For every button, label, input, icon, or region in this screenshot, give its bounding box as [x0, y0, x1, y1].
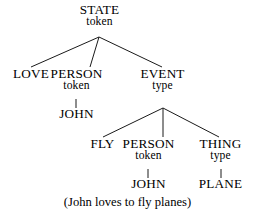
node-john-2: JOHN: [120, 177, 177, 190]
node-person-2: PERSON token: [120, 137, 177, 162]
node-john-1: JOHN: [48, 107, 105, 120]
node-person-1: PERSON token: [48, 67, 105, 92]
node-event-sublabel: type: [134, 80, 191, 92]
node-person-1-label: PERSON: [48, 67, 105, 80]
node-thing-label: THING: [192, 137, 249, 150]
node-love-label: LOVE: [13, 66, 49, 81]
edge-event-thing: [163, 108, 219, 137]
node-thing: THING type: [192, 137, 249, 162]
node-state-sublabel: token: [62, 16, 137, 28]
node-person-2-label: PERSON: [120, 137, 177, 150]
node-john-2-label: JOHN: [131, 176, 166, 191]
edge-state-love: [31, 37, 99, 67]
diagram-canvas: STATE token LOVE PERSON token JOHN EVENT…: [0, 0, 255, 219]
node-fly-label: FLY: [90, 136, 114, 151]
edge-state-person: [90, 37, 99, 67]
node-plane-label: PLANE: [199, 176, 243, 191]
node-john-1-label: JOHN: [59, 106, 94, 121]
node-event: EVENT type: [134, 67, 191, 92]
node-state: STATE token: [62, 3, 137, 28]
edge-event-fly: [103, 108, 163, 137]
node-state-label: STATE: [62, 3, 137, 16]
node-thing-sublabel: type: [192, 150, 249, 162]
node-person-1-sublabel: token: [48, 80, 105, 92]
figure-caption-text: (John loves to fly planes): [64, 195, 191, 209]
node-person-2-sublabel: token: [120, 150, 177, 162]
node-event-label: EVENT: [134, 67, 191, 80]
node-plane: PLANE: [192, 177, 249, 190]
figure-caption: (John loves to fly planes): [0, 196, 255, 209]
edge-state-event: [99, 37, 162, 67]
